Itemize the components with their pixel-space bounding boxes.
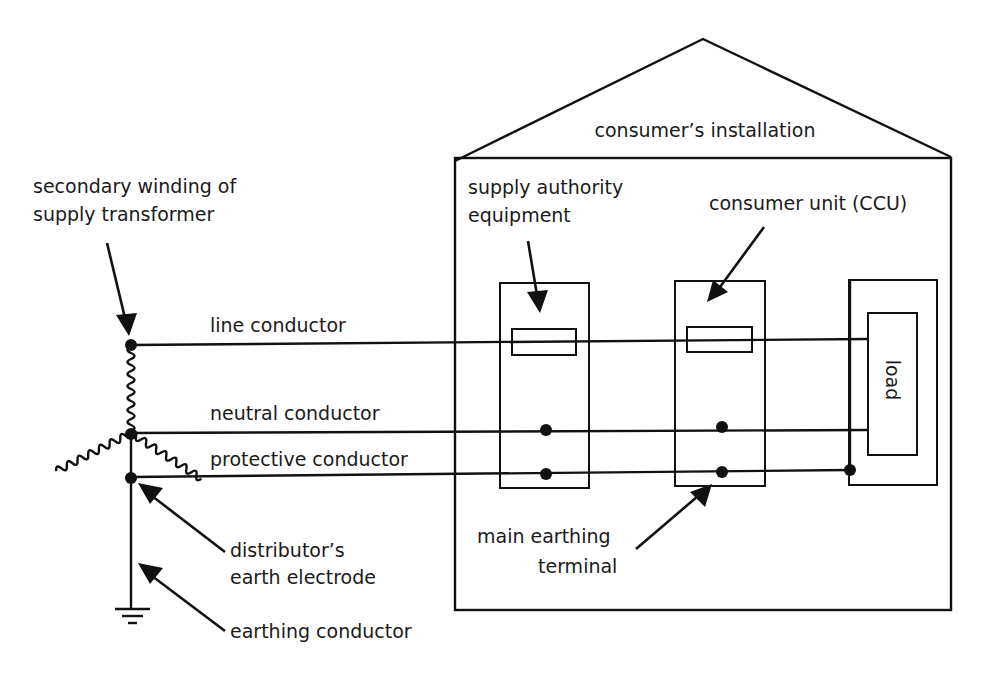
consumer-unit-label: consumer unit (CCU) — [709, 192, 907, 214]
distributor-label-line1: distributor’s — [230, 539, 345, 561]
load-label: load — [882, 360, 904, 401]
neutral-conductor-label: neutral conductor — [210, 402, 380, 424]
earthing-diagram: consumer’s installation secondary windin… — [0, 0, 986, 676]
line-terminal-dot — [125, 339, 137, 351]
distributor-label-line2: earth electrode — [230, 566, 376, 588]
arrow-main-earthing-terminal-icon — [636, 484, 712, 549]
secondary-winding-label-line2: supply transformer — [33, 203, 214, 225]
consumer-unit — [675, 281, 765, 486]
main-earthing-terminal-dot — [716, 466, 728, 478]
main-earthing-label-line2: terminal — [538, 555, 617, 577]
arrow-supply-authority-icon — [527, 241, 548, 313]
arrow-earth-electrode-icon — [138, 483, 225, 552]
protective-conductor-label: protective conductor — [210, 448, 408, 470]
secondary-winding-label-line1: secondary winding of — [33, 175, 237, 197]
ground-icon — [115, 609, 150, 623]
arrow-consumer-unit-icon — [707, 227, 764, 302]
arrow-earthing-conductor-icon — [138, 563, 225, 631]
earthing-conductor-label: earthing conductor — [230, 620, 412, 642]
supply-authority-label-line1: supply authority — [468, 176, 623, 198]
line-conductor-label: line conductor — [210, 314, 346, 336]
supply-authority-equipment — [500, 283, 589, 488]
main-earthing-label-line1: main earthing — [477, 525, 611, 547]
arrow-secondary-winding-icon — [107, 243, 137, 336]
consumers-installation-label: consumer’s installation — [595, 119, 816, 141]
supply-authority-label-line2: equipment — [468, 204, 571, 226]
protective-conductor — [131, 470, 850, 477]
coil-icon — [55, 347, 204, 482]
